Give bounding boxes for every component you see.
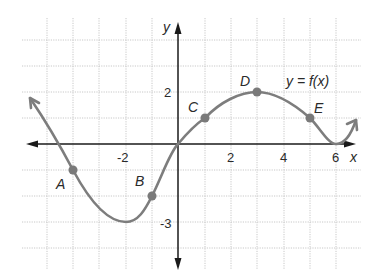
x-tick-6: 6 <box>332 150 339 165</box>
x-axis <box>26 141 356 148</box>
label-b: B <box>135 173 144 189</box>
y-axis-up-arrow-icon <box>175 22 182 34</box>
function-label: y = f(x) <box>285 73 329 89</box>
label-e: E <box>314 100 324 116</box>
point-a <box>69 166 78 175</box>
label-d: D <box>240 73 250 89</box>
x-axis-left-arrow-icon <box>26 141 38 148</box>
label-c: C <box>188 99 199 115</box>
x-axis-label: x <box>349 149 358 165</box>
y-tick-neg3: -3 <box>160 216 172 231</box>
label-a: A <box>55 176 65 192</box>
y-axis-down-arrow-icon <box>175 258 182 270</box>
y-tick-2: 2 <box>164 85 171 100</box>
x-tick-4: 4 <box>280 150 287 165</box>
point-c <box>201 114 210 123</box>
point-d <box>253 88 262 97</box>
x-axis-right-arrow-icon <box>344 141 356 148</box>
function-graph: A B C D E y = f(x) y x -2 2 4 6 2 -3 <box>0 0 377 277</box>
point-b <box>148 192 157 201</box>
x-tick-2: 2 <box>227 150 234 165</box>
y-axis-label: y <box>162 19 171 35</box>
x-tick-neg2: -2 <box>117 150 129 165</box>
